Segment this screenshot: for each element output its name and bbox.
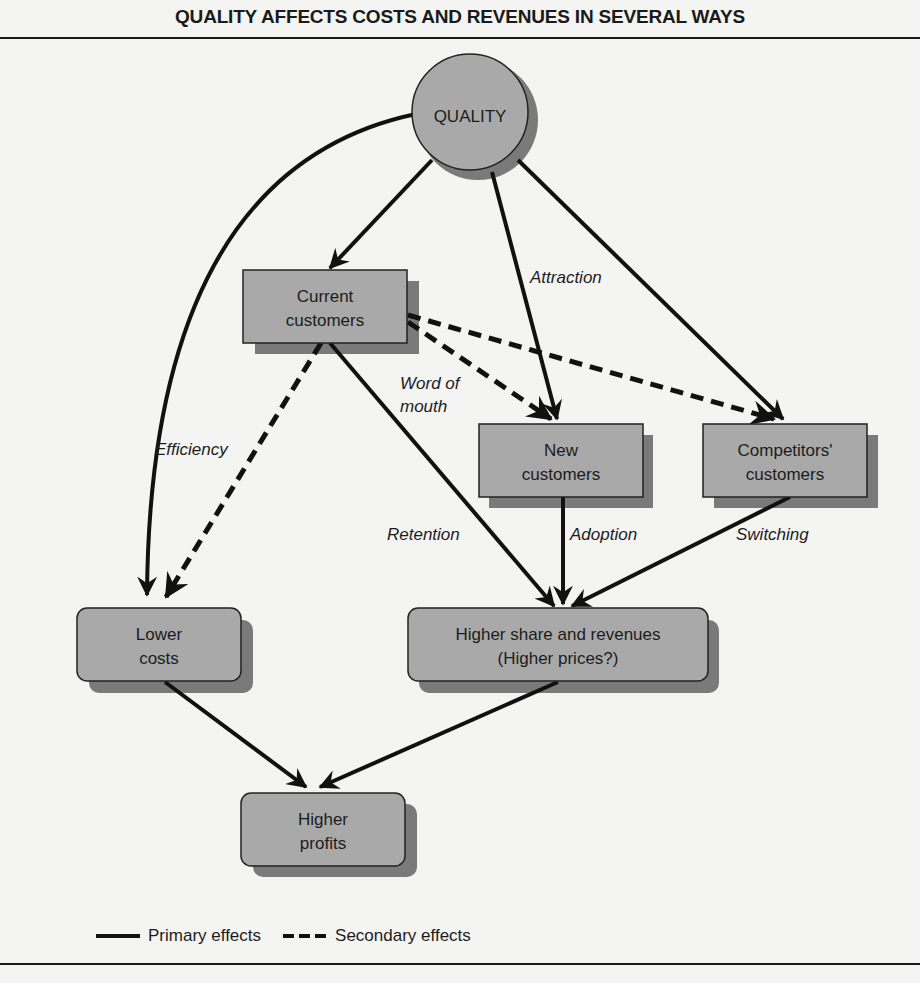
edge-current-lower-costs: [166, 343, 321, 597]
quality-label: QUALITY: [434, 107, 507, 126]
higher-profits-label-2: profits: [300, 834, 346, 853]
node-higher-profits: [241, 793, 405, 866]
competitors-label-1: Competitors': [738, 441, 833, 460]
secondary-edges: [166, 315, 774, 597]
new-label-1: New: [544, 441, 579, 460]
edge-current-competitors: [408, 315, 774, 419]
competitors-label-2: customers: [746, 465, 824, 484]
legend: Primary effects Secondary effects: [96, 926, 471, 946]
word-of-mouth-label-1: Word of: [400, 374, 462, 393]
edge-quality-current: [330, 160, 432, 268]
word-of-mouth-label-2: mouth: [400, 397, 447, 416]
current-label-1: Current: [297, 287, 354, 306]
edge-costs-profits: [165, 682, 306, 787]
lower-costs-label-2: costs: [139, 649, 179, 668]
switching-label: Switching: [736, 525, 809, 544]
legend-secondary: Secondary effects: [335, 926, 471, 946]
edge-quality-lower-costs: [147, 114, 416, 595]
new-label-2: customers: [522, 465, 600, 484]
edge-competitors-share: [572, 497, 790, 606]
efficiency-label: Efficiency: [155, 440, 229, 459]
node-higher-share: [408, 608, 708, 681]
diagram-canvas: QUALITY Current customers New customers …: [0, 0, 920, 983]
legend-primary: Primary effects: [148, 926, 261, 946]
node-competitors-customers: [703, 424, 867, 497]
higher-share-label-1: Higher share and revenues: [455, 625, 660, 644]
edge-quality-competitors: [518, 160, 783, 419]
current-label-2: customers: [286, 311, 364, 330]
retention-label: Retention: [387, 525, 460, 544]
node-current-customers: [243, 270, 407, 343]
node-lower-costs: [77, 608, 241, 681]
adoption-label: Adoption: [569, 525, 637, 544]
bottom-rule: [0, 963, 920, 965]
solid-line-icon: [96, 934, 140, 938]
higher-profits-label-1: Higher: [298, 810, 348, 829]
node-new-customers: [479, 424, 643, 497]
lower-costs-label-1: Lower: [136, 625, 183, 644]
attraction-label: Attraction: [529, 268, 602, 287]
edge-share-profits: [320, 682, 558, 787]
higher-share-label-2: (Higher prices?): [498, 649, 619, 668]
dashed-line-icon: [283, 934, 327, 938]
edge-quality-new: [492, 172, 557, 419]
